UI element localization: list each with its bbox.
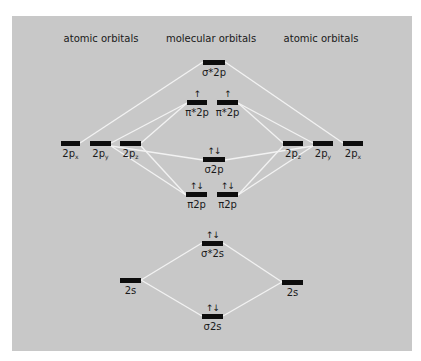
orbital-label-pi-star-2p-b: π*2p	[216, 107, 240, 118]
orbital-bar-L-2pz	[120, 141, 141, 146]
orbital-bar-R-2py	[313, 141, 333, 146]
orbital-label-text: π2p	[187, 199, 206, 210]
heading-atomic-orbitals-left: atomic orbitals	[64, 33, 139, 44]
orbital-label-text: 2p	[315, 148, 328, 159]
electron-spin-arrows-pi-2p-a: ↑↓	[190, 182, 203, 191]
orbital-label-text: 2p	[92, 148, 105, 159]
electron-spin-arrows-pi-star-2p-a: ↑	[194, 90, 201, 99]
orbital-label-text: π2p	[218, 199, 237, 210]
orbital-label-text: σ2p	[204, 164, 223, 175]
orbital-bar-pi-2p-a	[186, 192, 207, 197]
orbital-label-text: σ2s	[204, 321, 222, 332]
orbital-bar-pi-star-2p-a	[187, 100, 207, 105]
orbital-label-L-2s: 2s	[125, 285, 137, 296]
orbital-label-L-2px: 2px	[62, 148, 78, 162]
orbital-bar-sigma-star-2s	[202, 241, 223, 246]
orbital-label-pi-2p-a: π2p	[187, 199, 206, 210]
orbital-label-sigma-star-2p: σ*2p	[202, 67, 226, 78]
orbital-bar-L-2py	[90, 141, 111, 146]
orbital-label-R-2pz: 2pz	[285, 148, 301, 162]
orbital-label-R-2s: 2s	[287, 287, 299, 298]
orbital-label-sigma-2s: σ2s	[204, 321, 222, 332]
orbital-bar-sigma-star-2p	[203, 60, 225, 65]
orbital-label-subscript: z	[298, 153, 301, 160]
orbital-label-sigma-star-2s: σ*2s	[201, 248, 224, 259]
orbital-bar-L-2px	[61, 141, 80, 146]
orbital-label-subscript: y	[105, 153, 109, 160]
orbital-label-subscript: y	[328, 153, 332, 160]
orbital-label-text: 2p	[345, 148, 358, 159]
orbital-label-subscript: x	[358, 153, 362, 160]
orbital-bar-pi-star-2p-b	[217, 100, 238, 105]
orbital-label-text: σ*2s	[201, 248, 224, 259]
electron-spin-arrows-sigma-2s: ↑↓	[206, 304, 219, 313]
orbital-bar-sigma-2s	[202, 314, 223, 319]
orbital-label-R-2py: 2py	[315, 148, 331, 162]
electron-spin-arrows-pi-star-2p-b: ↑	[224, 90, 231, 99]
orbital-label-text: 2p	[62, 148, 75, 159]
orbital-label-text: 2s	[125, 285, 137, 296]
orbital-bar-R-2px	[343, 141, 363, 146]
electron-spin-arrows-pi-2p-b: ↑↓	[221, 182, 234, 191]
orbital-label-R-2px: 2px	[345, 148, 361, 162]
orbital-bar-R-2pz	[283, 141, 303, 146]
orbital-label-L-2pz: 2pz	[123, 148, 139, 162]
electron-spin-arrows-sigma-2p: ↑↓	[207, 147, 220, 156]
heading-molecular-orbitals: molecular orbitals	[166, 33, 256, 44]
orbital-label-sigma-2p: σ2p	[204, 164, 223, 175]
orbital-label-text: π*2p	[185, 107, 209, 118]
orbital-bar-L-2s	[120, 278, 141, 283]
orbital-bar-R-2s	[282, 280, 303, 285]
orbital-label-L-2py: 2py	[92, 148, 108, 162]
orbital-label-text: 2p	[123, 148, 136, 159]
orbital-label-text: 2s	[287, 287, 299, 298]
orbital-label-text: π*2p	[216, 107, 240, 118]
orbital-label-pi-2p-b: π2p	[218, 199, 237, 210]
orbital-bar-pi-2p-b	[217, 192, 238, 197]
orbital-label-subscript: x	[75, 153, 79, 160]
orbital-label-text: σ*2p	[202, 67, 226, 78]
electron-spin-arrows-sigma-star-2s: ↑↓	[206, 231, 219, 240]
heading-atomic-orbitals-right: atomic orbitals	[284, 33, 359, 44]
orbital-label-subscript: z	[135, 153, 138, 160]
orbital-label-pi-star-2p-a: π*2p	[185, 107, 209, 118]
orbital-label-text: 2p	[285, 148, 298, 159]
orbital-bar-sigma-2p	[203, 157, 225, 162]
